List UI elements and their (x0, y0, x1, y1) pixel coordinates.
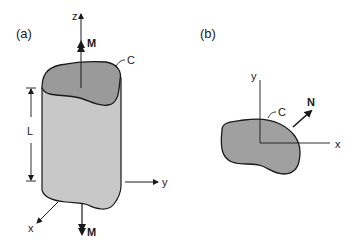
normal-vector (293, 111, 311, 127)
moment-bottom-arrow (78, 224, 86, 236)
panel-a-label: (a) (16, 26, 32, 41)
z-axis-label: z (72, 10, 78, 22)
moment-bottom-label: M (87, 226, 96, 238)
curve-c-label: C (127, 54, 135, 66)
cross-section (221, 119, 300, 174)
x-axis-label-b: x (335, 138, 341, 150)
curve-c-leader (116, 60, 125, 66)
curve-c-label-b: C (278, 106, 286, 118)
y-axis-label-b: y (251, 70, 257, 82)
normal-label: N (307, 96, 315, 108)
y-axis-label: y (162, 176, 168, 188)
length-label: L (27, 125, 33, 137)
moment-top-label: M (87, 37, 96, 49)
figure-canvas: (a) z M C L y x M (b) (0, 0, 356, 250)
panel-a: (a) z M C L y x M (16, 10, 168, 238)
curve-c-leader-b (268, 112, 276, 118)
panel-b-label: (b) (200, 26, 216, 41)
x-axis (37, 202, 58, 223)
panel-b: (b) y x C N (200, 26, 341, 174)
x-axis-label: x (28, 222, 34, 234)
moment-top-arrow (77, 40, 85, 52)
